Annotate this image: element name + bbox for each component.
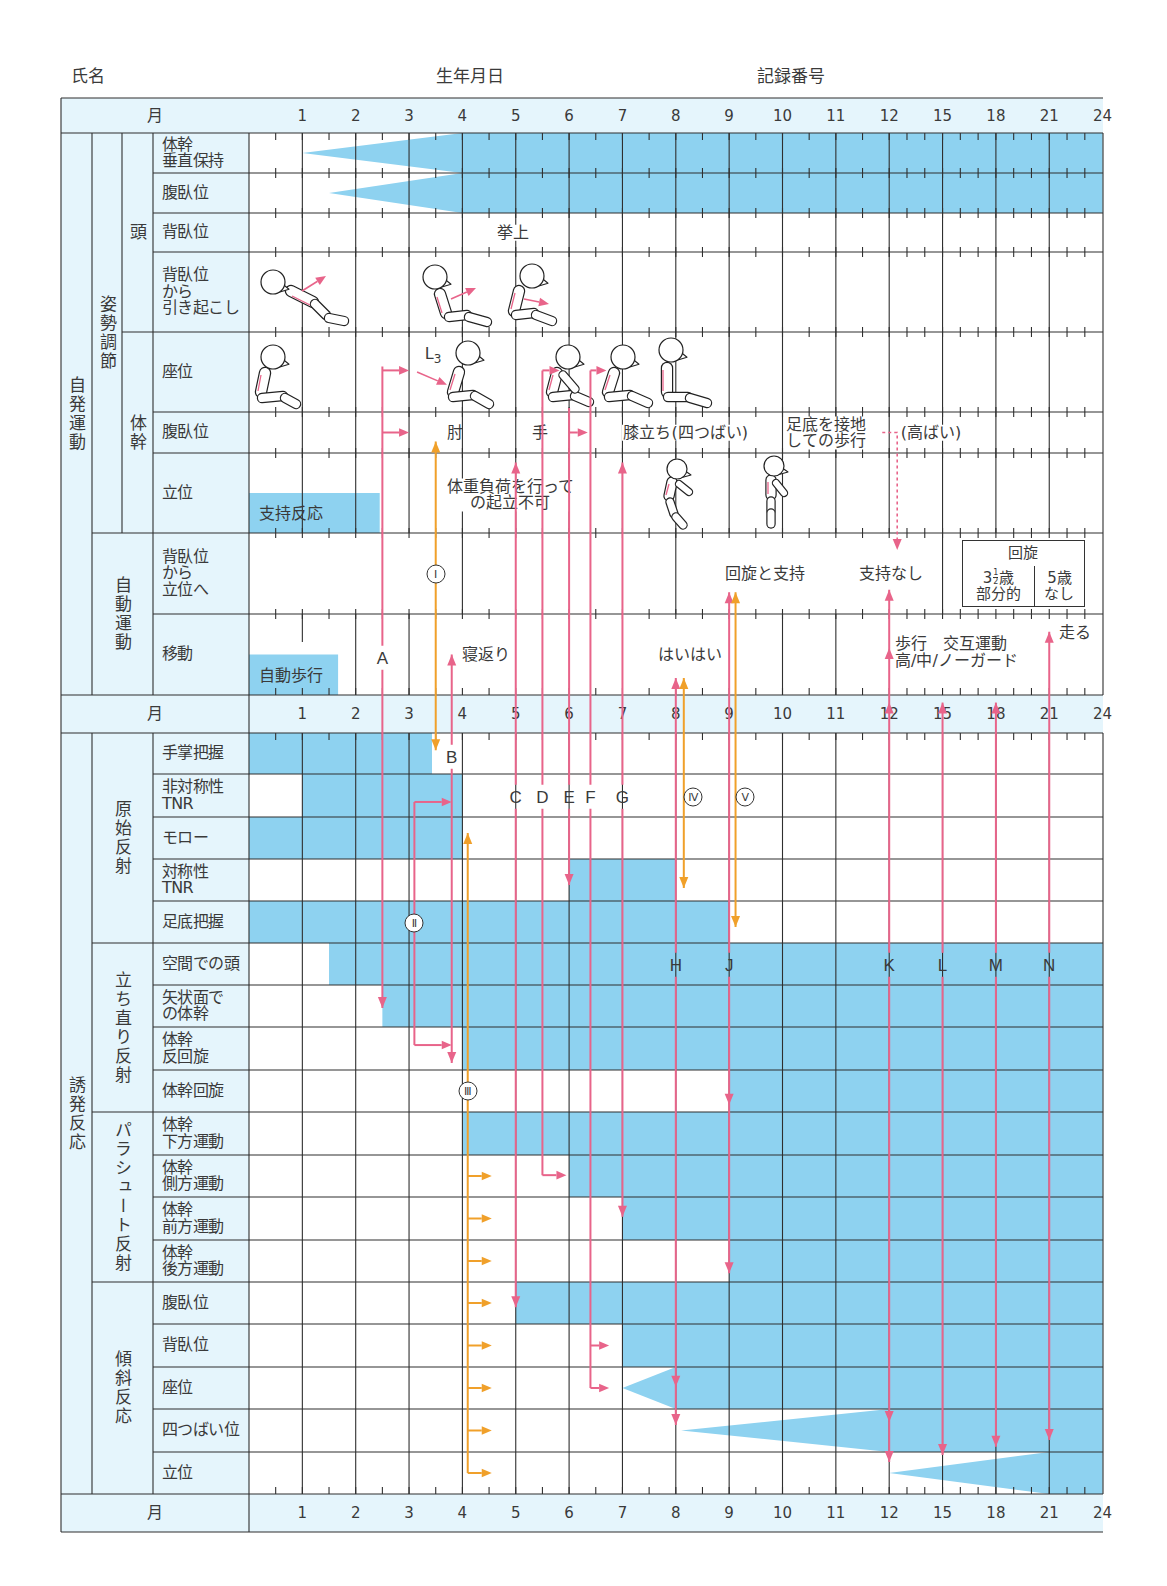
developmental-chart-page: 氏名 生年月日 記録番号 L3 回旋 312歳 部分的 5歳 なし 支持反応自動… <box>0 0 1167 1586</box>
numeral-IV-badge: Ⅳ <box>684 787 703 806</box>
numeral-III-badge: Ⅲ <box>458 1082 477 1101</box>
numeral-II-badge: Ⅱ <box>405 913 424 932</box>
numeral-I-badge: Ⅰ <box>426 564 445 583</box>
marker-label-C: C <box>510 788 522 805</box>
marker-label-M: M <box>989 956 1003 973</box>
marker-label-layer: ABCDEFGHJKLMNⅠⅡⅢⅣⅤ <box>0 0 1167 1586</box>
marker-label-N: N <box>1043 956 1055 973</box>
marker-label-A: A <box>377 649 388 666</box>
marker-label-B: B <box>446 748 457 765</box>
marker-label-H: H <box>670 956 682 973</box>
marker-label-F: F <box>585 788 595 805</box>
marker-label-G: G <box>616 788 629 805</box>
marker-label-E: E <box>563 788 574 805</box>
numeral-V-badge: Ⅴ <box>736 787 755 806</box>
marker-label-L: L <box>938 956 947 973</box>
marker-label-K: K <box>884 956 895 973</box>
marker-label-J: J <box>725 956 734 973</box>
marker-label-D: D <box>536 788 548 805</box>
